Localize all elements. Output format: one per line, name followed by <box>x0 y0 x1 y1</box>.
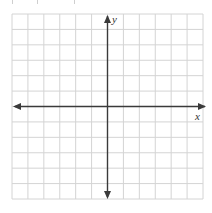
y-axis-down-arrow-icon <box>104 191 111 199</box>
y-axis-up-arrow-icon <box>104 15 111 23</box>
x-axis-right-arrow-icon <box>198 103 206 110</box>
x-axis <box>13 103 206 110</box>
coordinate-plane <box>0 0 212 213</box>
x-axis-label: x <box>195 111 200 122</box>
y-axis-label: y <box>112 14 117 25</box>
x-axis-left-arrow-icon <box>13 103 21 110</box>
